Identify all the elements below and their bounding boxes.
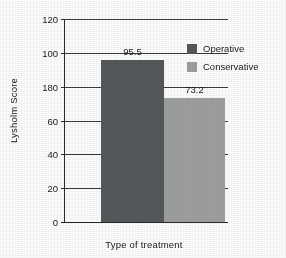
gridline-120 <box>65 19 228 20</box>
y-tick-40 <box>61 154 65 155</box>
x-axis-title: Type of treatment <box>58 239 230 250</box>
legend: Operative Conservative <box>187 43 258 72</box>
y-tick-60 <box>61 121 65 122</box>
y-axis-title: Lysholm Score <box>8 51 19 171</box>
bar-chart-figure: Lysholm Score 0204060180100120 95.5 73.2… <box>0 0 286 258</box>
y-tick-label-40: 40 <box>47 149 58 160</box>
bar-operative[interactable] <box>101 60 164 222</box>
bar-value-operative: 95.5 <box>123 46 142 57</box>
y-tick-label-120: 120 <box>42 14 58 25</box>
y-tick-label-100: 100 <box>42 47 58 58</box>
y-tick-0 <box>61 222 65 223</box>
legend-swatch-icon-operative <box>187 44 197 54</box>
legend-item-operative[interactable]: Operative <box>187 43 258 54</box>
y-tick-label-0: 0 <box>53 217 58 228</box>
y-tick-label-60: 60 <box>47 115 58 126</box>
y-tick-100 <box>61 53 65 54</box>
bar-conservative[interactable] <box>164 98 225 222</box>
y-tick-label-20: 20 <box>47 183 58 194</box>
legend-label-operative: Operative <box>203 43 244 54</box>
y-tick-label-80: 180 <box>42 81 58 92</box>
y-tick-80 <box>61 87 65 88</box>
y-tick-120 <box>61 19 65 20</box>
legend-label-conservative: Conservative <box>203 61 258 72</box>
plot-area: 0204060180100120 95.5 73.2 Operative Con… <box>64 19 228 223</box>
legend-swatch-icon-conservative <box>187 62 197 72</box>
bar-value-conservative: 73.2 <box>185 84 204 95</box>
legend-item-conservative[interactable]: Conservative <box>187 61 258 72</box>
y-tick-20 <box>61 188 65 189</box>
